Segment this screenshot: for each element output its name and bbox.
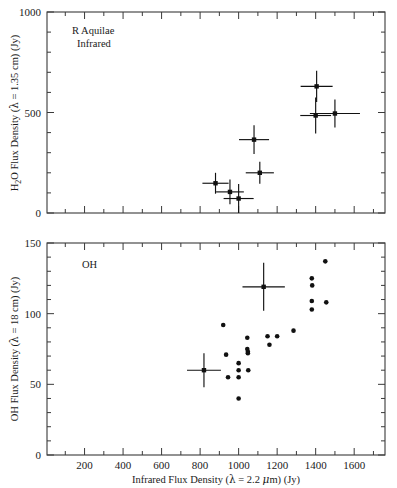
h2o-data-points	[202, 71, 360, 213]
data-point	[310, 276, 315, 281]
oh-error-bar-points	[187, 263, 285, 387]
y-tick-label: 100	[25, 308, 42, 320]
y-tick-label: 50	[30, 378, 42, 390]
y-tick-label: 0	[36, 449, 42, 461]
y-tick-label: 150	[25, 237, 42, 249]
data-marker	[314, 84, 318, 88]
data-point	[245, 335, 250, 340]
data-marker	[213, 181, 217, 185]
oh-x-tick-labels: 2004006008001000120014001600	[76, 459, 365, 471]
h2o-y-axis-title: H2O Flux Density (λ = 1.35 cm) (Jy)	[8, 34, 23, 191]
oh-data-points	[221, 259, 329, 401]
h2o-annotation-line-2: Infrared	[77, 38, 112, 49]
y-tick-label: 500	[25, 107, 42, 119]
data-point	[310, 299, 315, 304]
h2o-annotation-line-1: R Aquilae	[72, 25, 115, 36]
oh-y-ticks	[47, 243, 385, 455]
dual-panel-scatter-figure: 05001000 H2O Flux Density (λ = 1.35 cm) …	[0, 0, 397, 488]
x-tick-label: 600	[153, 459, 170, 471]
x-tick-label: 1400	[305, 459, 328, 471]
data-marker	[236, 196, 240, 200]
data-point	[267, 342, 272, 347]
data-point	[236, 361, 241, 366]
oh-y-tick-labels: 050100150	[25, 237, 42, 461]
data-marker	[202, 368, 206, 372]
data-marker	[228, 190, 232, 194]
data-point	[265, 334, 270, 339]
oh-y-axis-title: OH Flux Density (λ = 18 cm) (Jy)	[8, 276, 21, 421]
data-point	[226, 375, 231, 380]
data-point	[224, 352, 229, 357]
y-tick-label: 1000	[19, 6, 42, 18]
x-tick-label: 400	[115, 459, 132, 471]
x-tick-label: 200	[76, 459, 93, 471]
oh-annotation-line-1: OH	[82, 259, 98, 270]
data-marker	[258, 171, 262, 175]
data-point	[310, 307, 315, 312]
x-axis-title: Infrared Flux Density (λ = 2.2 μm) (Jy)	[132, 473, 301, 486]
x-tick-label: 1000	[228, 459, 251, 471]
data-point	[275, 334, 280, 339]
x-tick-label: 1600	[343, 459, 366, 471]
oh-panel: 050100150 2004006008001000120014001600 O…	[8, 237, 385, 486]
oh-x-ticks	[65, 243, 373, 455]
data-point	[236, 396, 241, 401]
data-point	[291, 328, 296, 333]
h2o-y-tick-labels: 05001000	[19, 6, 42, 219]
data-marker	[261, 285, 265, 289]
data-point	[236, 375, 241, 380]
oh-plot-frame	[47, 243, 385, 455]
figure-container: 05001000 H2O Flux Density (λ = 1.35 cm) …	[0, 0, 397, 488]
data-point	[324, 300, 329, 305]
data-point	[246, 368, 251, 373]
y-tick-label: 0	[36, 207, 42, 219]
data-marker	[333, 111, 337, 115]
data-point	[246, 351, 251, 356]
data-marker	[252, 137, 256, 141]
data-point	[221, 323, 226, 328]
x-tick-label: 800	[192, 459, 209, 471]
x-tick-label: 1200	[266, 459, 289, 471]
data-point	[323, 259, 328, 264]
data-point	[236, 368, 241, 373]
h2o-panel: 05001000 H2O Flux Density (λ = 1.35 cm) …	[8, 6, 385, 219]
data-point	[310, 283, 315, 288]
